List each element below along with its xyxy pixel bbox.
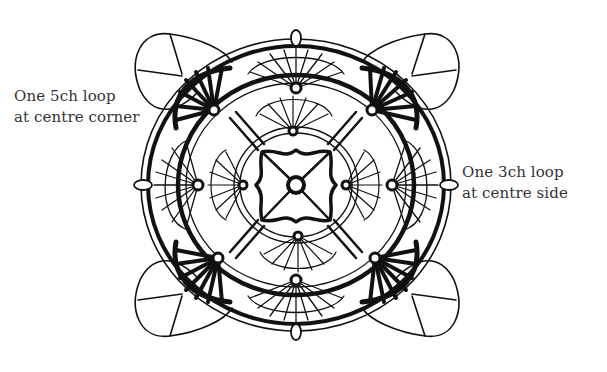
nub-top	[291, 30, 301, 46]
nub-right	[440, 180, 458, 190]
nub-bottom	[291, 324, 301, 340]
ring-centres	[193, 83, 397, 285]
nub-left	[134, 180, 152, 190]
centre-dot	[288, 177, 304, 193]
crochet-motif-diagram	[0, 0, 607, 372]
